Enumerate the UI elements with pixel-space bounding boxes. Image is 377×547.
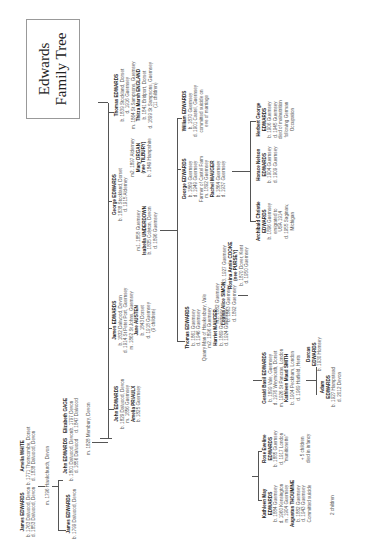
person-james-1799: James EDWARDS b. 1799 Dalwood, Devon	[66, 489, 77, 539]
connector	[253, 380, 262, 381]
person-thomas-1861: Thomas EDWARDS b. 1861 Guernsey d. 1946 …	[185, 294, 230, 361]
connector	[177, 118, 182, 119]
connector	[316, 367, 317, 395]
person-john-1829: John EDWARDS b. 1829 Dalwood, Devon m. 1…	[114, 379, 142, 429]
person-george-1869: George EDWARDS b. 1869 Guernsey d. 1949 …	[182, 156, 227, 202]
person-kathleen-may: Kathleen May EDWARDS b. 1884 Guernsey d.…	[262, 480, 312, 527]
kathleen-children-note: 2 children	[330, 495, 336, 515]
person-john-1801: John EDWARDS b. 1801 Dalwood, Devon d. 1…	[63, 431, 80, 481]
person-horace: Horace Nelson EDWARDS b. 1904 Guernsey d…	[256, 146, 278, 183]
person-rosina-cooke: m3. 1927 Guernsey Rosina Annie COOKE (ne…	[222, 242, 250, 289]
connector	[100, 442, 108, 443]
person-isabella-underdown: m1. 1858 Guernsey Isabella UNDERDOWN b. …	[136, 206, 158, 255]
connector	[58, 530, 66, 531]
connector	[58, 481, 59, 531]
marriage-1828: m. 1828 Membury, Devon	[86, 402, 92, 455]
person-george-1838: George EDWARDS b. 1838 Stockland, Dorset…	[112, 168, 129, 221]
sibling-line-gen5b	[250, 122, 251, 222]
person-amelia-white: Amelia WHITE b. 1771 Thorncombe, Dorset …	[20, 427, 37, 485]
connector	[160, 230, 177, 231]
connector	[238, 295, 248, 296]
family-tree-page: Edwards Family Tree James EDWARDS b. 176…	[0, 0, 377, 547]
connector	[108, 328, 112, 329]
connector	[177, 341, 185, 342]
person-elizabeth-gage: Elizabeth GAGE b. 1797 Devon d. 1847 Dal…	[63, 398, 80, 433]
person-herbert: Herbert George EDWARDS b. 1906 Guernsey …	[256, 100, 295, 139]
person-adam: Adam EDWARDS b. 1927 Hampstead d. 2012 D…	[320, 367, 342, 407]
connector	[108, 201, 112, 202]
person-archibald: Archibald Christie EDWARDS b. 1896 Guern…	[256, 201, 295, 241]
title-line-1: Edwards	[36, 20, 53, 118]
title-line-2: Family Tree	[53, 20, 70, 118]
person-rose-eveline: Rose Eveline EDWARDS b. 1885 Guernsey d.…	[262, 430, 290, 467]
connector	[92, 442, 96, 443]
connector	[108, 438, 112, 439]
sibling-line-gen3	[108, 103, 109, 439]
title-box: Edwards Family Tree	[26, 19, 80, 119]
connector	[258, 452, 259, 501]
person-william-1870: William EDWARDS b. 1870 Guernsey d. 1901…	[182, 85, 210, 137]
person-james-1763: James EDWARDS b. 1763 Dalwood, Devon d. …	[20, 487, 37, 537]
person-thomas-1839: Thomas EDWARDS b. 1839 Stockland, Dorset…	[114, 61, 159, 129]
connector	[177, 119, 178, 170]
sibling-line-gen4	[177, 170, 178, 342]
connector	[38, 486, 45, 487]
connector	[58, 480, 63, 481]
person-mary-organ: m2. 1897 Alderney Mary ORGAN (nee TILBUR…	[130, 138, 152, 177]
marriage-1796: m. 1796 Hawkchurch, Devon	[45, 446, 51, 505]
connector	[232, 171, 250, 172]
person-gerald-basil: Gerald Basil EDWARDS b. 1899 Vale, Guern…	[262, 349, 301, 407]
connector	[306, 380, 316, 381]
person-dorcas: Dorcas EDWARDS b. 1930 Hornsey	[306, 337, 323, 371]
connector	[108, 409, 114, 410]
connector	[100, 438, 108, 439]
connector	[98, 102, 108, 103]
infancy-note: + 5 children died in infancy	[300, 434, 311, 463]
person-james-1832: James EDWARDS b. 1832 Dalwood, Devon d. …	[112, 288, 157, 353]
connector	[252, 476, 258, 477]
